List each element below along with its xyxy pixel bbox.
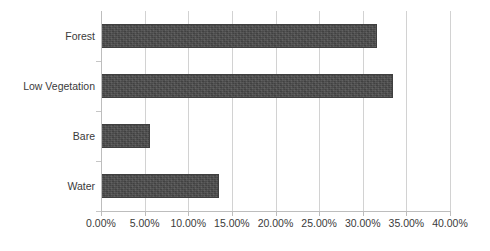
value-axis-tick	[188, 211, 189, 216]
value-axis-labels: 0.00%5.00%10.00%15.00%20.00%25.00%30.00%…	[0, 216, 490, 234]
category-axis-tick	[96, 111, 101, 112]
gridline-3500	[406, 11, 407, 211]
value-axis-tick	[450, 211, 451, 216]
plot-area	[101, 11, 450, 211]
bar-chart: ForestLow VegetationBareWater 0.00%5.00%…	[0, 0, 490, 251]
value-axis-tick	[232, 211, 233, 216]
category-axis-tick	[96, 161, 101, 162]
value-axis-tick	[319, 211, 320, 216]
value-axis-tick	[101, 211, 102, 216]
category-label-low-vegetation: Low Vegetation	[2, 80, 95, 92]
category-label-bare: Bare	[2, 130, 95, 142]
bar-low-vegetation[interactable]	[101, 74, 393, 98]
bar-water[interactable]	[101, 174, 219, 198]
bar-bare[interactable]	[101, 124, 150, 148]
value-axis-tick	[406, 211, 407, 216]
value-axis-label: 40.00%	[415, 216, 485, 230]
category-label-water: Water	[2, 180, 95, 192]
value-axis-tick	[363, 211, 364, 216]
category-axis-tick	[96, 61, 101, 62]
gridline-4000	[450, 11, 451, 211]
value-axis-tick	[276, 211, 277, 216]
category-axis-tick	[96, 211, 101, 212]
category-label-forest: Forest	[2, 30, 95, 42]
value-axis-tick	[145, 211, 146, 216]
category-axis-line	[101, 11, 102, 212]
bar-forest[interactable]	[101, 24, 377, 48]
category-axis-labels: ForestLow VegetationBareWater	[0, 0, 95, 251]
